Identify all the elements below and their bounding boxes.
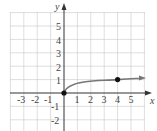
svg-text:1: 1 — [56, 75, 61, 86]
svg-text:-1: -1 — [51, 101, 59, 112]
svg-text:-2: -2 — [31, 94, 39, 105]
svg-text:2: 2 — [56, 62, 61, 73]
svg-text:-3: -3 — [17, 94, 25, 105]
axes — [10, 6, 149, 131]
svg-text:3: 3 — [56, 48, 61, 59]
grid — [10, 12, 145, 131]
y-axis-arrow-icon — [62, 3, 67, 10]
svg-text:5: 5 — [129, 94, 134, 105]
point-4-1 — [115, 77, 120, 82]
y-axis-label: y — [54, 1, 60, 12]
svg-text:1: 1 — [75, 94, 80, 105]
svg-text:5: 5 — [56, 21, 61, 32]
svg-text:2: 2 — [88, 94, 93, 105]
x-tick-labels: -3 -2 -1 1 2 3 4 5 — [17, 94, 134, 105]
svg-text:4: 4 — [56, 35, 61, 46]
sqrt-curve — [64, 78, 142, 93]
svg-text:-2: -2 — [51, 115, 59, 126]
y-tick-labels: 5 4 3 2 1 -1 -2 — [51, 21, 61, 126]
graph: x y -3 -2 -1 1 2 3 4 5 5 4 3 2 1 -1 -2 — [0, 0, 157, 131]
x-axis-label: x — [149, 95, 155, 106]
point-origin — [61, 90, 66, 95]
svg-text:3: 3 — [102, 94, 107, 105]
svg-text:4: 4 — [115, 94, 120, 105]
